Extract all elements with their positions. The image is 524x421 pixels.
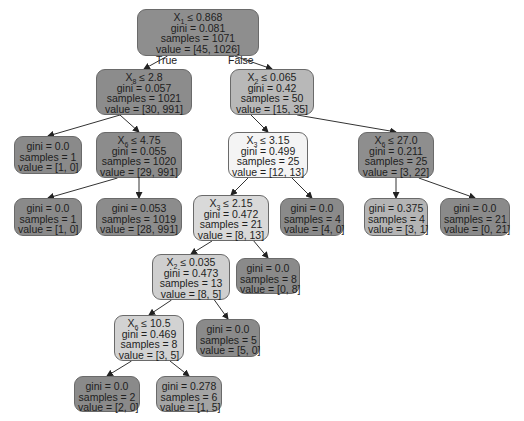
split-rule: X3 ≤ 3.15 bbox=[232, 135, 304, 146]
node-gini: gini = 0.0 bbox=[444, 203, 506, 214]
tree-edge bbox=[191, 241, 212, 254]
split-rule: X6 ≤ 4.75 bbox=[100, 135, 178, 146]
split-node: X8 ≤ 2.8gini = 0.057samples = 1021value … bbox=[96, 69, 192, 115]
edge-label-true: True bbox=[156, 54, 177, 66]
tree-edge bbox=[149, 300, 172, 315]
tree-edge bbox=[231, 178, 248, 195]
tree-edge bbox=[107, 361, 132, 376]
split-node: X3 ≤ 2.15gini = 0.472samples = 21value =… bbox=[193, 195, 269, 241]
split-node: X6 ≤ 10.5gini = 0.469samples = 8value = … bbox=[114, 315, 184, 361]
node-value: value = [3, 5] bbox=[118, 350, 180, 361]
node-gini: gini = 0.0 bbox=[240, 263, 296, 274]
node-gini: gini = 0.278 bbox=[160, 381, 218, 392]
split-rule: X2 ≤ 0.065 bbox=[234, 72, 310, 83]
node-gini: gini = 0.0 bbox=[78, 381, 136, 392]
node-value: value = [3, 22] bbox=[362, 167, 430, 178]
tree-edge bbox=[170, 361, 189, 376]
node-value: value = [1, 0] bbox=[18, 224, 78, 235]
split-rule: X6 ≤ 10.5 bbox=[118, 318, 180, 329]
node-value: value = [1, 5] bbox=[160, 402, 218, 413]
node-samples: samples = 13 bbox=[156, 278, 226, 289]
tree-edge bbox=[297, 115, 396, 132]
node-gini: gini = 0.0 bbox=[18, 203, 78, 214]
node-gini: gini = 0.0 bbox=[284, 203, 340, 214]
node-value: value = [3, 1] bbox=[368, 224, 424, 235]
node-value: value = [45, 1026] bbox=[141, 44, 255, 55]
node-value: value = [15, 35] bbox=[234, 104, 310, 115]
node-value: value = [12, 13] bbox=[232, 167, 304, 178]
node-value: value = [8, 5] bbox=[156, 289, 226, 300]
node-samples: samples = 8 bbox=[118, 339, 180, 350]
node-value: value = [8, 13] bbox=[197, 230, 265, 241]
split-rule: X2 ≤ 0.035 bbox=[156, 257, 226, 268]
node-samples: samples = 1020 bbox=[100, 156, 178, 167]
leaf-node: gini = 0.0samples = 21value = [0, 21] bbox=[440, 198, 510, 236]
leaf-node: gini = 0.0samples = 8value = [0, 8] bbox=[236, 258, 300, 294]
node-samples: samples = 25 bbox=[362, 156, 430, 167]
split-rule: X1 ≤ 0.868 bbox=[141, 12, 255, 23]
tree-edge bbox=[419, 178, 475, 198]
split-node: X2 ≤ 0.035gini = 0.473samples = 13value … bbox=[152, 254, 230, 300]
leaf-node: gini = 0.0samples = 2value = [2, 0] bbox=[74, 376, 140, 412]
split-node: X1 ≤ 0.868gini = 0.081samples = 1071valu… bbox=[137, 9, 259, 56]
leaf-node: gini = 0.375samples = 4value = [3, 1] bbox=[364, 198, 428, 236]
split-rule: X8 ≤ 2.8 bbox=[100, 72, 188, 83]
leaf-node: gini = 0.053samples = 1019value = [28, 9… bbox=[96, 198, 182, 236]
tree-edge bbox=[254, 241, 268, 258]
tree-edge bbox=[120, 115, 139, 132]
split-node: X6 ≤ 4.75gini = 0.055samples = 1020value… bbox=[96, 132, 182, 178]
tree-edge bbox=[48, 178, 118, 198]
split-node: X2 ≤ 0.065gini = 0.42samples = 50value =… bbox=[230, 69, 314, 115]
leaf-node: gini = 0.0samples = 5value = [5, 0] bbox=[196, 319, 260, 357]
node-samples: samples = 25 bbox=[232, 156, 304, 167]
node-gini: gini = 0.0 bbox=[200, 324, 256, 335]
split-rule: X6 ≤ 27.0 bbox=[362, 135, 430, 146]
node-gini: gini = 0.053 bbox=[100, 203, 178, 214]
node-value: value = [4, 0] bbox=[284, 224, 340, 235]
node-samples: samples = 1071 bbox=[141, 33, 255, 44]
leaf-node: gini = 0.0samples = 4value = [4, 0] bbox=[280, 198, 344, 236]
node-gini: gini = 0.375 bbox=[368, 203, 424, 214]
node-gini: gini = 0.0 bbox=[18, 141, 78, 152]
node-value: value = [0, 21] bbox=[444, 224, 506, 235]
node-value: value = [2, 0] bbox=[78, 402, 136, 413]
split-node: X6 ≤ 27.0gini = 0.211samples = 25value =… bbox=[358, 132, 434, 178]
node-value: value = [30, 991] bbox=[100, 104, 188, 115]
node-value: value = [1, 0] bbox=[18, 162, 78, 173]
leaf-node: gini = 0.0samples = 1value = [1, 0] bbox=[14, 136, 82, 174]
node-samples: samples = 1021 bbox=[100, 93, 188, 104]
leaf-node: gini = 0.278samples = 6value = [1, 5] bbox=[156, 376, 222, 412]
node-value: value = [5, 0] bbox=[200, 345, 256, 356]
node-value: value = [0, 8] bbox=[240, 284, 296, 295]
split-rule: X3 ≤ 2.15 bbox=[197, 198, 265, 209]
node-samples: samples = 50 bbox=[234, 93, 310, 104]
split-node: X3 ≤ 3.15gini = 0.499samples = 25value =… bbox=[228, 132, 308, 178]
tree-edge bbox=[251, 115, 268, 132]
leaf-node: gini = 0.0samples = 1value = [1, 0] bbox=[14, 198, 82, 236]
node-samples: samples = 21 bbox=[197, 219, 265, 230]
tree-edge bbox=[292, 178, 312, 198]
tree-edge bbox=[214, 300, 228, 319]
edge-label-false: False bbox=[228, 54, 254, 66]
node-value: value = [29, 991] bbox=[100, 167, 178, 178]
node-value: value = [28, 991] bbox=[100, 224, 178, 235]
